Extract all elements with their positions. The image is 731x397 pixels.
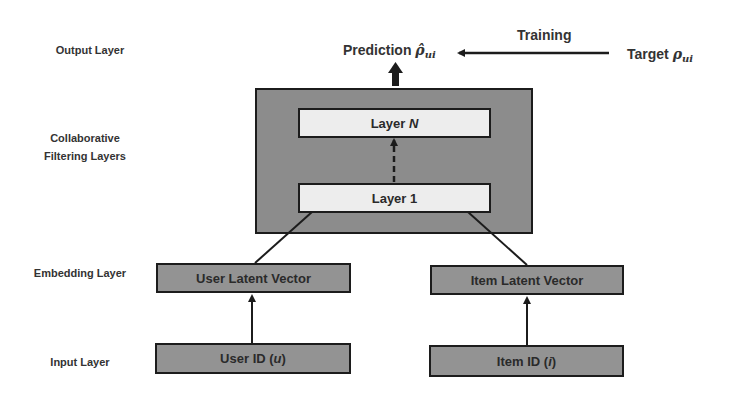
user-id-var: u [274, 351, 282, 366]
item-id-suffix: ) [552, 354, 556, 369]
target-label: Target ρui [627, 46, 693, 64]
user-id-prefix: User ID ( [220, 351, 273, 366]
layer-1-box: Layer 1 [298, 183, 491, 213]
cf-layers-label-line2: Filtering Layers [25, 147, 145, 165]
training-label: Training [517, 27, 571, 43]
embedding-layer-label: Embedding Layer [20, 264, 140, 282]
input-layer-label: Input Layer [30, 353, 130, 371]
layer-n-var: N [409, 116, 418, 131]
target-subscript: ui [682, 53, 693, 64]
prediction-subscript: ui [425, 49, 436, 60]
layer-n-box: Layer N [298, 108, 491, 138]
cf-layers-label-line1: Collaborative [25, 129, 145, 147]
item-latent-vector-box: Item Latent Vector [430, 265, 624, 295]
user-id-box: User ID (u) [155, 343, 351, 374]
prediction-label: Prediction ρ̂ui [343, 42, 436, 60]
item-id-box: Item ID (i) [429, 345, 624, 377]
layer-n-prefix: Layer [371, 116, 406, 131]
item-id-prefix: Item ID ( [497, 354, 548, 369]
cf-layers-label: Collaborative Filtering Layers [25, 129, 145, 165]
prediction-text: Prediction [343, 42, 411, 58]
output-layer-label: Output Layer [40, 41, 140, 59]
output-arrow-icon [388, 62, 403, 86]
user-latent-vector-box: User Latent Vector [156, 263, 351, 293]
user-id-suffix: ) [282, 351, 286, 366]
target-symbol: ρ [673, 46, 682, 62]
prediction-symbol: ρ̂ [415, 42, 424, 58]
target-text: Target [627, 46, 669, 62]
